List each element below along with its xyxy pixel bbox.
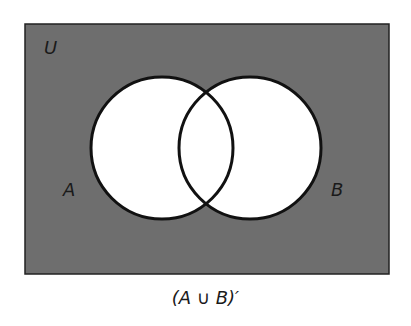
set-b-label: B (331, 181, 343, 199)
venn-diagram (0, 0, 411, 326)
universe-label: U (44, 39, 57, 57)
diagram-caption: (A ∪ B)′ (0, 287, 411, 308)
set-a-label: A (63, 181, 75, 199)
